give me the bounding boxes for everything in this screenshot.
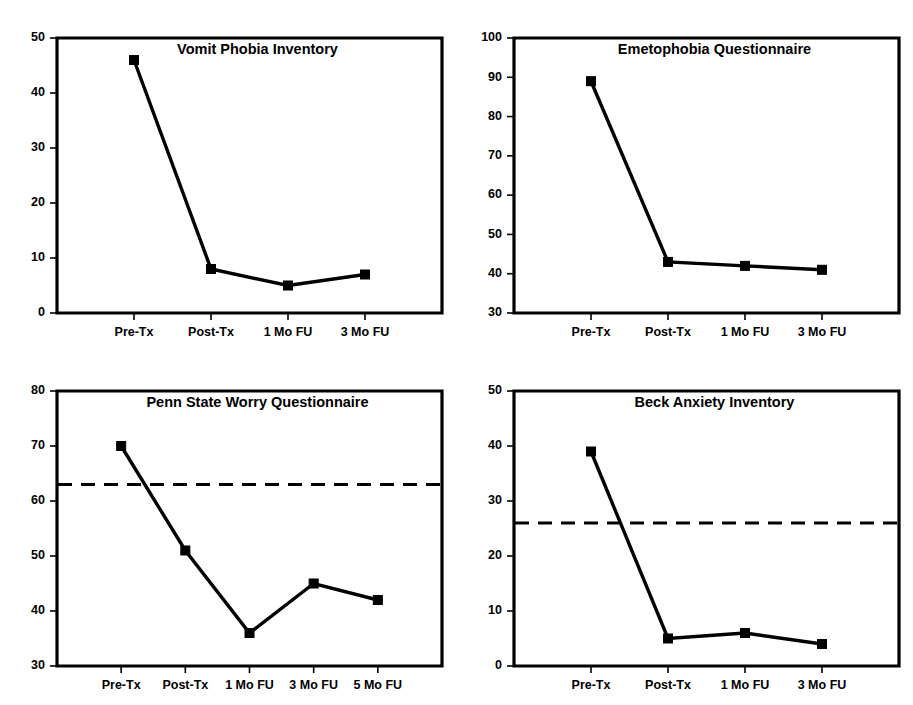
data-point-marker: [741, 629, 750, 638]
y-tick-label: 60: [31, 493, 45, 507]
chart-panel-penn-state-worry-questionnaire: 304050607080Pre-TxPost-Tx1 Mo FU3 Mo FU5…: [0, 353, 456, 705]
data-point-marker: [664, 257, 673, 266]
data-point-marker: [587, 447, 596, 456]
plot-frame: [514, 391, 899, 666]
y-axis: 304050607080: [31, 383, 57, 672]
x-axis: Pre-TxPost-Tx1 Mo FU3 Mo FU: [572, 313, 847, 339]
data-series-line: [134, 60, 365, 286]
y-tick-label: 40: [488, 266, 502, 280]
chart-svg-vpi: 01020304050Pre-TxPost-Tx1 Mo FU3 Mo FUVo…: [0, 0, 456, 352]
data-point-marker: [664, 634, 673, 643]
chart-title: Vomit Phobia Inventory: [177, 41, 338, 57]
data-point-marker: [117, 442, 126, 451]
y-tick-label: 10: [31, 250, 45, 264]
x-tick-label: 1 Mo FU: [721, 325, 770, 339]
x-tick-label: Pre-Tx: [115, 325, 154, 339]
data-markers: [587, 77, 827, 275]
chart-panel-vomit-phobia-inventory: 01020304050Pre-TxPost-Tx1 Mo FU3 Mo FUVo…: [0, 0, 456, 352]
x-tick-label: Post-Tx: [645, 678, 691, 692]
data-point-marker: [818, 640, 827, 649]
y-tick-label: 70: [488, 148, 502, 162]
y-tick-label: 70: [31, 438, 45, 452]
data-point-marker: [373, 596, 382, 605]
y-tick-label: 30: [488, 305, 502, 319]
y-axis: 30405060708090100: [481, 30, 514, 319]
x-tick-label: 3 Mo FU: [798, 325, 847, 339]
chart-panel-emetophobia-questionnaire: 30405060708090100Pre-TxPost-Tx1 Mo FU3 M…: [457, 0, 913, 352]
y-tick-label: 80: [488, 109, 502, 123]
x-axis: Pre-TxPost-Tx1 Mo FU3 Mo FU5 Mo FU: [102, 666, 402, 692]
data-point-marker: [245, 629, 254, 638]
data-point-marker: [181, 546, 190, 555]
chart-title: Penn State Worry Questionnaire: [146, 394, 368, 410]
figure-root: 01020304050Pre-TxPost-Tx1 Mo FU3 Mo FUVo…: [0, 0, 913, 705]
x-tick-label: 1 Mo FU: [225, 678, 274, 692]
y-tick-label: 40: [31, 603, 45, 617]
data-point-marker: [207, 265, 216, 274]
y-tick-label: 20: [488, 548, 502, 562]
plot-frame: [514, 38, 899, 313]
data-markers: [587, 447, 827, 649]
x-tick-label: 3 Mo FU: [798, 678, 847, 692]
data-series-line: [591, 452, 822, 645]
x-tick-label: Post-Tx: [188, 325, 234, 339]
data-point-marker: [741, 261, 750, 270]
y-tick-label: 0: [38, 305, 45, 319]
y-tick-label: 10: [488, 603, 502, 617]
chart-svg-bai: 01020304050Pre-TxPost-Tx1 Mo FU3 Mo FUBe…: [457, 353, 913, 705]
y-tick-label: 30: [31, 140, 45, 154]
x-tick-label: 5 Mo FU: [354, 678, 403, 692]
x-tick-label: Pre-Tx: [572, 678, 611, 692]
plot-frame: [57, 38, 442, 313]
y-tick-label: 0: [495, 658, 502, 672]
chart-svg-eq: 30405060708090100Pre-TxPost-Tx1 Mo FU3 M…: [457, 0, 913, 352]
y-axis: 01020304050: [488, 383, 514, 672]
data-point-marker: [818, 265, 827, 274]
y-tick-label: 50: [488, 383, 502, 397]
data-markers: [130, 56, 370, 291]
chart-title: Emetophobia Questionnaire: [618, 41, 811, 57]
data-point-marker: [587, 77, 596, 86]
chart-svg-pswq: 304050607080Pre-TxPost-Tx1 Mo FU3 Mo FU5…: [0, 353, 456, 705]
y-tick-label: 60: [488, 187, 502, 201]
data-series-line: [591, 81, 822, 270]
x-tick-label: 3 Mo FU: [289, 678, 338, 692]
data-point-marker: [361, 270, 370, 279]
x-tick-label: Pre-Tx: [102, 678, 141, 692]
y-tick-label: 40: [31, 85, 45, 99]
y-tick-label: 40: [488, 438, 502, 452]
x-axis: Pre-TxPost-Tx1 Mo FU3 Mo FU: [572, 666, 847, 692]
data-point-marker: [284, 281, 293, 290]
data-series-line: [121, 446, 378, 633]
x-tick-label: Pre-Tx: [572, 325, 611, 339]
chart-panel-beck-anxiety-inventory: 01020304050Pre-TxPost-Tx1 Mo FU3 Mo FUBe…: [457, 353, 913, 705]
x-tick-label: Post-Tx: [162, 678, 208, 692]
x-tick-label: 3 Mo FU: [341, 325, 390, 339]
x-tick-label: 1 Mo FU: [264, 325, 313, 339]
x-tick-label: Post-Tx: [645, 325, 691, 339]
data-point-marker: [130, 56, 139, 65]
data-point-marker: [309, 579, 318, 588]
y-tick-label: 50: [488, 227, 502, 241]
y-tick-label: 30: [488, 493, 502, 507]
y-tick-label: 50: [31, 548, 45, 562]
chart-title: Beck Anxiety Inventory: [635, 394, 795, 410]
y-tick-label: 20: [31, 195, 45, 209]
y-tick-label: 90: [488, 70, 502, 84]
plot-frame: [57, 391, 442, 666]
data-markers: [117, 442, 383, 638]
x-axis: Pre-TxPost-Tx1 Mo FU3 Mo FU: [115, 313, 390, 339]
y-tick-label: 80: [31, 383, 45, 397]
y-axis: 01020304050: [31, 30, 57, 319]
y-tick-label: 100: [481, 30, 502, 44]
y-tick-label: 30: [31, 658, 45, 672]
y-tick-label: 50: [31, 30, 45, 44]
x-tick-label: 1 Mo FU: [721, 678, 770, 692]
